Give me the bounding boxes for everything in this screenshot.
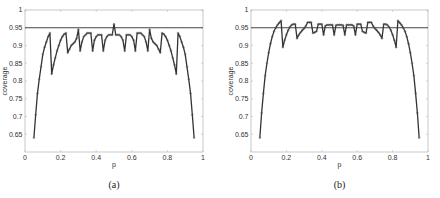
y-tick-label: 0.95 [235,24,249,31]
y-tick-label: 0.75 [235,95,249,102]
y-tick-label: 0.65 [235,131,249,138]
y-tick-label: 0.95 [9,24,23,31]
x-tick-label: 1 [201,154,205,161]
x-tick-label: 0 [249,154,253,161]
panel-caption: (b) [334,179,346,191]
y-tick-label: 0.9 [13,42,23,49]
y-axis-label: coverage [227,66,235,95]
coverage-series-line [34,24,194,138]
y-tick-label: 0.7 [13,113,23,120]
x-tick-label: 0.8 [388,154,398,161]
figure: 00.20.40.60.810.650.70.750.80.850.90.951… [0,0,440,198]
y-tick-label: 0.85 [9,60,23,67]
axes-frame [251,10,428,152]
y-tick-label: 0.75 [9,95,23,102]
x-tick-label: 0.4 [317,154,327,161]
y-axis-label: coverage [1,66,9,95]
y-tick-label: 1 [245,6,249,13]
x-axis-label: p [112,161,116,169]
x-axis-label: p [338,161,342,169]
coverage-series-line [260,21,419,138]
x-tick-label: 0.2 [56,154,66,161]
axes-frame [25,10,203,152]
x-tick-label: 0.8 [163,154,173,161]
chart-panel-b: 00.20.40.60.810.650.70.750.80.850.90.951… [227,6,430,191]
panel-caption: (a) [108,179,119,191]
x-tick-label: 0.2 [282,154,292,161]
x-tick-label: 0.4 [91,154,101,161]
x-tick-label: 0.6 [352,154,362,161]
y-tick-label: 0.8 [239,77,249,84]
x-tick-label: 0.6 [127,154,137,161]
x-tick-label: 0 [23,154,27,161]
y-tick-label: 0.7 [239,113,249,120]
chart-panel-a: 00.20.40.60.810.650.70.750.80.850.90.951… [1,6,205,191]
y-tick-label: 1 [19,6,23,13]
x-tick-label: 1 [426,154,430,161]
y-tick-label: 0.9 [239,42,249,49]
y-tick-label: 0.65 [9,131,23,138]
y-tick-label: 0.85 [235,60,249,67]
y-tick-label: 0.8 [13,77,23,84]
